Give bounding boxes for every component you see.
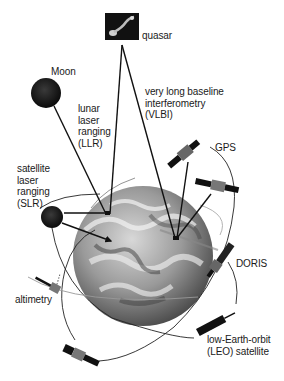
gps-satellite-1-icon [166,138,202,170]
gps-label: GPS [215,142,236,154]
altimetry-satellite-icon [34,265,66,294]
moon-label: Moon [51,66,76,78]
leo-satellite-icon [196,309,237,336]
ground-station-vlbi [173,236,179,240]
leo-label: low-Earth-orbit (LEO) satellite [207,334,271,357]
doris-label: DORIS [236,258,267,270]
slr-label: satellite laser ranging (SLR) [17,163,50,209]
llr-label: lunar laser ranging (LLR) [78,103,111,149]
quasar-label: quasar [142,30,172,42]
ground-station-llr [105,211,110,215]
slr-satellite-sphere [41,206,63,228]
vlbi-label: very long baseline interferometry (VLBI) [145,86,224,121]
quasar-image [105,13,139,40]
earth-globe [73,186,218,326]
bottom-satellite-icon [62,343,101,368]
moon-sphere [31,78,61,108]
altimetry-label: altimetry [15,294,52,306]
